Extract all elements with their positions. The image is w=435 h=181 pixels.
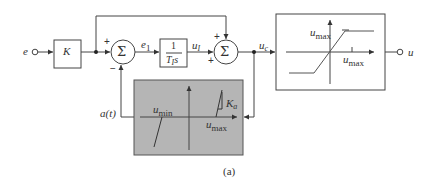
sum1-plus-sign: +: [104, 37, 110, 47]
sum2-symbol: Σ: [220, 45, 229, 58]
umin-label: umin: [153, 104, 173, 118]
saturation-ymax-label: umax: [310, 27, 331, 41]
sum2-bottom-plus-sign: +: [208, 56, 214, 66]
integrator-denominator: TIs: [166, 55, 178, 67]
input-terminal: [32, 49, 38, 55]
output-terminal: [397, 49, 403, 55]
saturation-xmax-label: umax: [343, 54, 364, 68]
umax-label: umax: [206, 119, 227, 133]
junction-dot-1: [94, 50, 98, 54]
uI-label: uI: [192, 40, 200, 53]
figure-caption: (a): [223, 165, 235, 177]
input-label: e: [23, 46, 28, 57]
sum1-minus-sign: −: [110, 64, 116, 74]
slope-ka-label: Ka: [226, 98, 237, 111]
sum2-top-plus-sign: +: [214, 32, 220, 42]
junction-dot-2: [252, 50, 256, 54]
at-label: a(t): [100, 108, 116, 119]
uc-label: uc: [259, 40, 268, 53]
output-label: u: [408, 47, 414, 58]
integrator-numerator: 1: [171, 41, 176, 51]
block-diagram-canvas: [0, 0, 435, 181]
sum1-symbol: Σ: [117, 45, 126, 58]
gain-label: K: [63, 46, 70, 57]
e1-label: e1: [141, 39, 150, 53]
